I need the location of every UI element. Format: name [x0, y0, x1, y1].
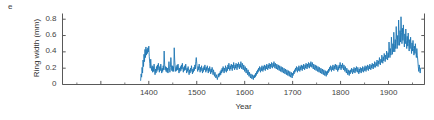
x-tick-label: 1900 [375, 89, 403, 97]
data-group [141, 17, 421, 81]
x-tick-label: 1500 [183, 89, 211, 97]
axes-group [63, 14, 425, 85]
x-tick-label: 1600 [231, 89, 259, 97]
y-tick-label: 0.6 [0, 31, 57, 39]
x-tick-label: 1700 [279, 89, 307, 97]
x-axis-ticks [77, 81, 413, 85]
ring-width-series-line [141, 17, 421, 81]
x-axis-label: Year [204, 103, 284, 111]
figure-panel-e: e Ring width (mm) 00.20.40.60.8140015001… [0, 0, 434, 120]
x-tick-label: 1800 [327, 89, 355, 97]
x-tick-label: 1400 [135, 89, 163, 97]
y-tick-label: 0.4 [0, 47, 57, 55]
y-tick-label: 0.8 [0, 15, 57, 23]
y-tick-label: 0 [0, 80, 57, 88]
y-tick-label: 0.2 [0, 64, 57, 72]
